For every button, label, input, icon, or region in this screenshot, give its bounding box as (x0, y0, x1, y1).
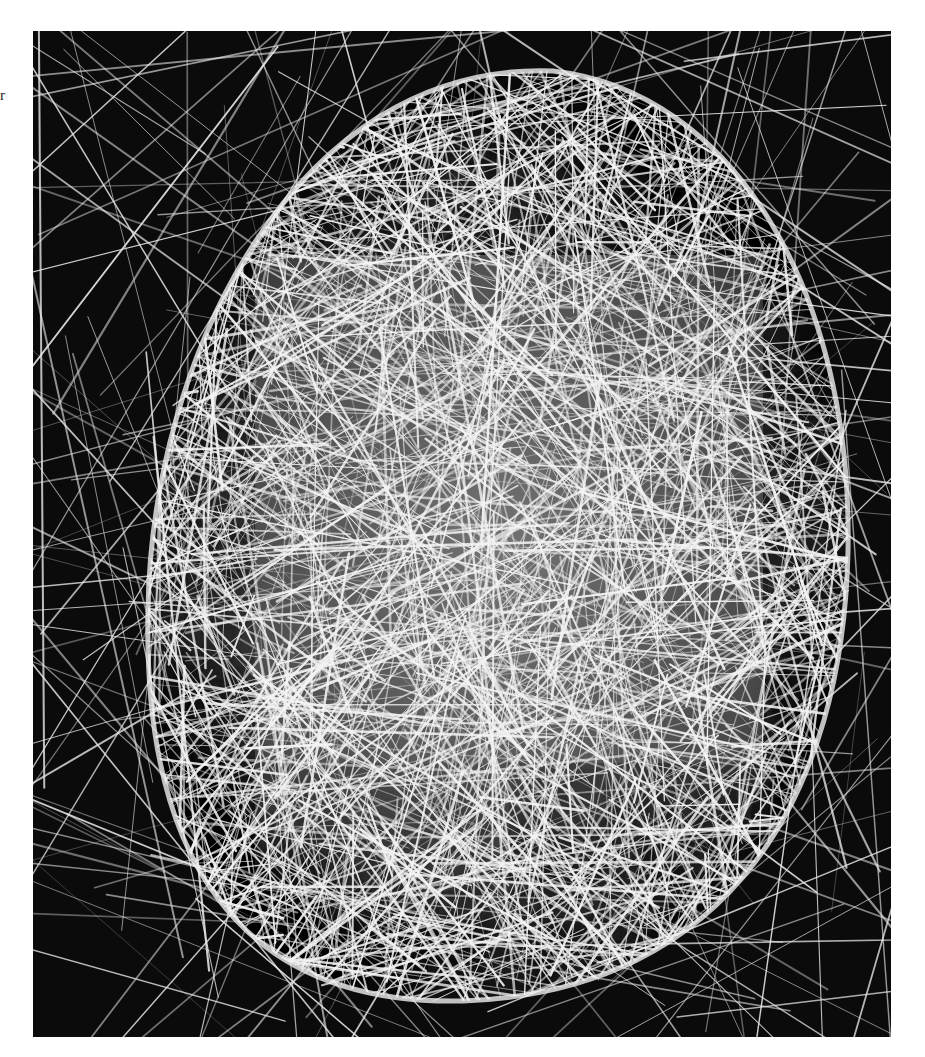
margin-text-fragment: r (0, 88, 5, 103)
cocoon-image (33, 31, 891, 1037)
cocoon-photograph (33, 31, 891, 1037)
